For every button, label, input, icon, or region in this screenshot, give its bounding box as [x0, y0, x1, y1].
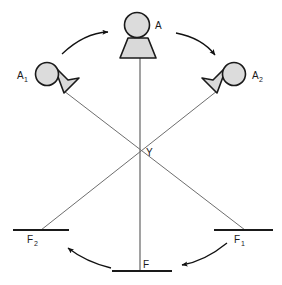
vertex-y-group: Y [146, 147, 153, 158]
observer-a1-label: A [17, 70, 24, 81]
mirror-f2-label: F [27, 234, 33, 245]
observer-a1-head [36, 63, 59, 86]
observer-a2-head [223, 63, 246, 86]
observer-a-label: A [155, 20, 162, 31]
observer-a2-group: A 2 [202, 63, 263, 94]
observer-a-body [120, 38, 156, 58]
ray-a1-to-f1 [64, 91, 245, 230]
mirror-f-group: F [112, 259, 172, 271]
mirror-f2-sublabel: 2 [34, 240, 38, 247]
diagram-canvas: F 2 F 1 F A A 1 [0, 0, 282, 285]
arrow-f1-to-f [182, 243, 227, 265]
vertex-y-label: Y [146, 147, 153, 158]
observer-a2-sublabel: 2 [259, 76, 263, 83]
mirror-f2-group: F 2 [13, 230, 69, 247]
ray-a2-to-f2 [41, 91, 217, 230]
observer-a1-group: A 1 [17, 63, 79, 94]
arrows-group [62, 32, 227, 268]
arrow-a1-to-a [62, 32, 108, 54]
observer-a-group: A [120, 13, 162, 59]
observer-a-head [125, 13, 150, 38]
mirror-f-label: F [143, 259, 149, 270]
reflection-diagram: F 2 F 1 F A A 1 [0, 0, 282, 285]
mirror-f1-label: F [234, 234, 240, 245]
observer-a2-label: A [252, 70, 259, 81]
observer-a1-sublabel: 1 [24, 76, 28, 83]
mirror-f1-sublabel: 1 [241, 240, 245, 247]
arrow-f-to-f2 [68, 248, 111, 268]
arrow-a-to-a2 [176, 33, 215, 55]
mirror-f1-group: F 1 [214, 230, 273, 247]
